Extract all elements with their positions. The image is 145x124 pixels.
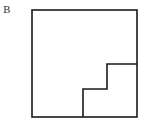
staircase-line (83, 64, 137, 117)
diagram-canvas (0, 0, 145, 124)
